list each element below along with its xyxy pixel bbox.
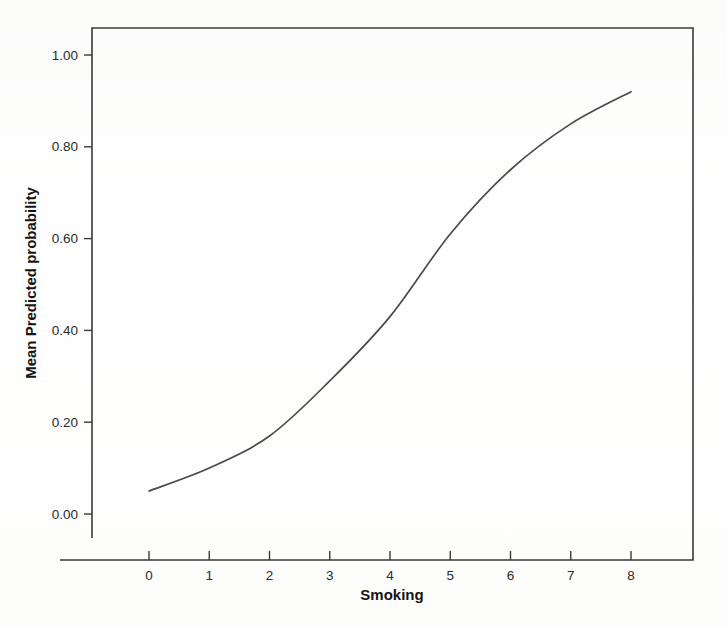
chart-svg: 0.000.200.400.600.801.00 012345678 Mean … — [0, 0, 727, 627]
y-tick-label: 0.80 — [52, 139, 78, 154]
y-tick-label: 0.60 — [52, 231, 78, 246]
x-tick-label: 7 — [567, 568, 575, 583]
y-tick-label: 0.00 — [52, 507, 78, 522]
x-axis-ticks: 012345678 — [145, 551, 635, 583]
x-tick-label: 1 — [205, 568, 213, 583]
x-tick-label: 3 — [326, 568, 334, 583]
x-axis-title: Smoking — [360, 586, 423, 603]
figure-page: 0.000.200.400.600.801.00 012345678 Mean … — [0, 0, 727, 627]
x-tick-label: 5 — [446, 568, 454, 583]
y-tick-label: 0.40 — [52, 323, 78, 338]
x-axis-line — [60, 538, 693, 560]
x-tick-label: 8 — [627, 568, 635, 583]
x-tick-label: 4 — [386, 568, 394, 583]
y-tick-label: 0.20 — [52, 415, 78, 430]
data-series-group — [149, 92, 631, 491]
x-tick-label: 2 — [266, 568, 274, 583]
line-chart: 0.000.200.400.600.801.00 012345678 Mean … — [0, 0, 727, 627]
y-tick-label: 1.00 — [52, 48, 78, 63]
y-axis-ticks: 0.000.200.400.600.801.00 — [52, 48, 92, 522]
plot-border — [92, 28, 693, 538]
x-tick-label: 6 — [507, 568, 515, 583]
y-axis-title: Mean Predicted probability — [22, 186, 39, 378]
series-line-mean-predicted-probability — [149, 92, 631, 491]
x-tick-label: 0 — [145, 568, 153, 583]
